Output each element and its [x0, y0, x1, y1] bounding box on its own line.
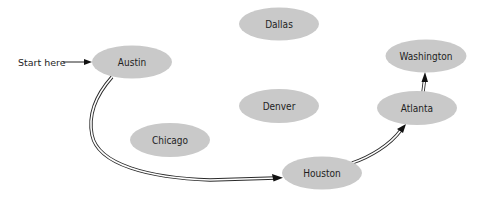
node-houston[interactable]: Houston — [282, 157, 362, 190]
node-washington[interactable]: Washington — [386, 40, 467, 73]
arrowhead-icon — [422, 72, 429, 82]
node-label: Denver — [263, 101, 296, 112]
start-here-label: Start here — [18, 57, 66, 68]
edge-atlanta-washington — [422, 72, 429, 92]
node-denver[interactable]: Denver — [239, 89, 319, 123]
arrowhead-icon — [272, 174, 283, 182]
node-atlanta[interactable]: Atlanta — [377, 91, 457, 125]
node-label: Austin — [118, 57, 146, 68]
start-marker: Start here — [18, 57, 92, 68]
node-label: Houston — [303, 168, 340, 179]
node-label: Atlanta — [401, 103, 433, 114]
node-austin[interactable]: Austin — [92, 46, 172, 79]
route-diagram: Start here Austin Dallas Washington Denv… — [0, 0, 479, 202]
edge-houston-atlanta — [352, 124, 406, 163]
node-chicago[interactable]: Chicago — [130, 123, 210, 157]
node-label: Washington — [400, 51, 453, 62]
node-label: Dallas — [265, 19, 293, 30]
start-arrowhead-icon — [84, 59, 92, 65]
node-dallas[interactable]: Dallas — [239, 8, 319, 41]
node-label: Chicago — [152, 135, 189, 146]
